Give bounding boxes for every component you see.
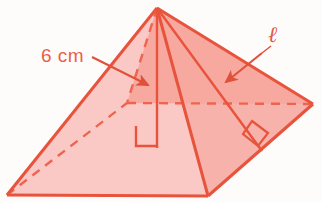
slant-height-label: ℓ — [268, 22, 278, 47]
height-label: 6 cm — [41, 45, 84, 66]
slant-label-stem — [262, 46, 271, 53]
pyramid-svg: 6 cm ℓ — [0, 0, 322, 202]
face-back-right — [127, 8, 313, 104]
pyramid-figure: 6 cm ℓ — [0, 0, 322, 202]
edge-left-to-front — [7, 195, 208, 196]
